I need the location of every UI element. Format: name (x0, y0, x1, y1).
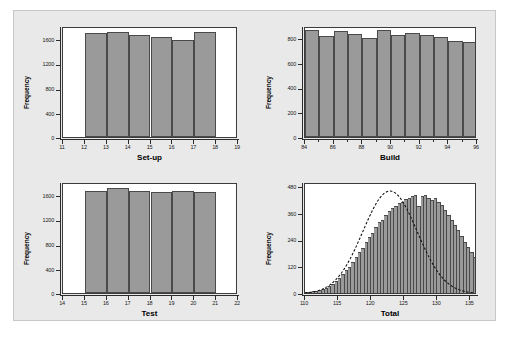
y-axis-total (302, 183, 303, 295)
y-tick-label: 0 (266, 291, 296, 297)
bar (151, 192, 173, 294)
x-tick-label: 115 (327, 300, 347, 306)
chart-total: 0 120 240 360 480 110 115 120 125 130 13… (256, 167, 497, 322)
bar (319, 36, 333, 138)
y-tick (56, 270, 60, 271)
y-tick (298, 294, 302, 295)
bar (334, 31, 348, 137)
plot-area-total (304, 183, 476, 294)
y-tick-label: 1200 (24, 217, 54, 223)
y-axis-test (60, 183, 61, 295)
chart-build: 0 200 400 600 800 84 86 88 90 92 94 96 B… (256, 11, 497, 167)
y-tick (56, 221, 60, 222)
bar (194, 32, 216, 137)
x-tick-label: 92 (409, 144, 429, 150)
bar (107, 188, 129, 293)
x-tick-label: 19 (227, 144, 247, 150)
y-tick (56, 90, 60, 91)
bar (305, 30, 319, 138)
bar (151, 37, 173, 138)
y-tick (298, 113, 302, 114)
x-tick-label: 18 (140, 300, 160, 306)
x-tick-minor (376, 140, 377, 142)
bar (463, 42, 476, 137)
bars-total (305, 184, 475, 293)
y-tick (56, 65, 60, 66)
x-tick-minor (433, 140, 434, 142)
y-tick (298, 64, 302, 65)
y-tick (56, 246, 60, 247)
x-tick-label: 19 (161, 300, 181, 306)
x-tick-label: 12 (74, 144, 94, 150)
y-axis-setup (60, 27, 61, 139)
bar (172, 40, 194, 137)
x-tick-minor (347, 140, 348, 142)
x-tick-minor (318, 140, 319, 142)
y-tick (56, 40, 60, 41)
chart-test: 0 400 800 1200 1600 14 15 16 17 18 19 20… (14, 167, 256, 322)
x-tick-label: 125 (393, 300, 413, 306)
bars-setup (63, 28, 236, 137)
x-tick-label: 120 (360, 300, 380, 306)
y-tick-label: 480 (266, 184, 296, 190)
x-tick-minor (462, 140, 463, 142)
x-tick-label: 88 (351, 144, 371, 150)
y-tick (56, 114, 60, 115)
x-tick-label: 84 (294, 144, 314, 150)
y-tick (298, 138, 302, 139)
bar (448, 41, 462, 137)
x-tick-label: 15 (74, 300, 94, 306)
y-tick-label: 200 (266, 110, 296, 116)
x-tick-minor (404, 140, 405, 142)
y-tick (298, 89, 302, 90)
x-tick-label: 13 (96, 144, 116, 150)
y-axis-title-build: Frequency (265, 76, 272, 109)
x-tick-label: 135 (459, 300, 479, 306)
x-tick-label: 16 (96, 300, 116, 306)
y-tick-label: 0 (24, 135, 54, 141)
x-tick-label: 17 (118, 300, 138, 306)
plot-area-test (62, 183, 237, 294)
bar (129, 191, 151, 293)
y-tick (56, 196, 60, 197)
y-tick (56, 294, 60, 295)
plot-area-setup (62, 27, 237, 138)
bar (85, 33, 107, 137)
bar (194, 192, 216, 293)
y-tick (298, 187, 302, 188)
y-tick (298, 39, 302, 40)
x-tick-label: 94 (437, 144, 457, 150)
y-tick-label: 800 (266, 36, 296, 42)
x-axis-total (302, 295, 478, 296)
bar (348, 34, 362, 137)
x-tick-label: 20 (183, 300, 203, 306)
x-tick-label: 17 (183, 144, 203, 150)
y-tick-label: 0 (266, 135, 296, 141)
x-tick-label: 130 (426, 300, 446, 306)
y-tick (298, 214, 302, 215)
bar (405, 33, 419, 137)
bar (129, 35, 151, 137)
x-tick-label: 15 (140, 144, 160, 150)
x-tick-label: 14 (52, 300, 72, 306)
y-tick-label: 400 (24, 111, 54, 117)
bar (85, 191, 107, 293)
bars-build (305, 28, 475, 137)
bar (362, 38, 376, 137)
y-tick (56, 138, 60, 139)
bar (391, 35, 405, 137)
plot-area-build (304, 27, 476, 138)
x-tick-label: 110 (294, 300, 314, 306)
x-tick-label: 96 (466, 144, 486, 150)
y-tick (298, 241, 302, 242)
y-tick (298, 267, 302, 268)
bar (434, 37, 448, 137)
x-axis-title-build: Build (302, 153, 478, 162)
y-tick-label: 600 (266, 61, 296, 67)
x-axis-title-total: Total (302, 309, 478, 318)
y-axis-title-setup: Frequency (23, 76, 30, 109)
x-tick-label: 18 (205, 144, 225, 150)
x-tick-label: 14 (118, 144, 138, 150)
figure-panel: 0 400 800 1200 1600 11 12 13 14 15 16 17… (13, 10, 496, 321)
x-tick-label: 86 (323, 144, 343, 150)
